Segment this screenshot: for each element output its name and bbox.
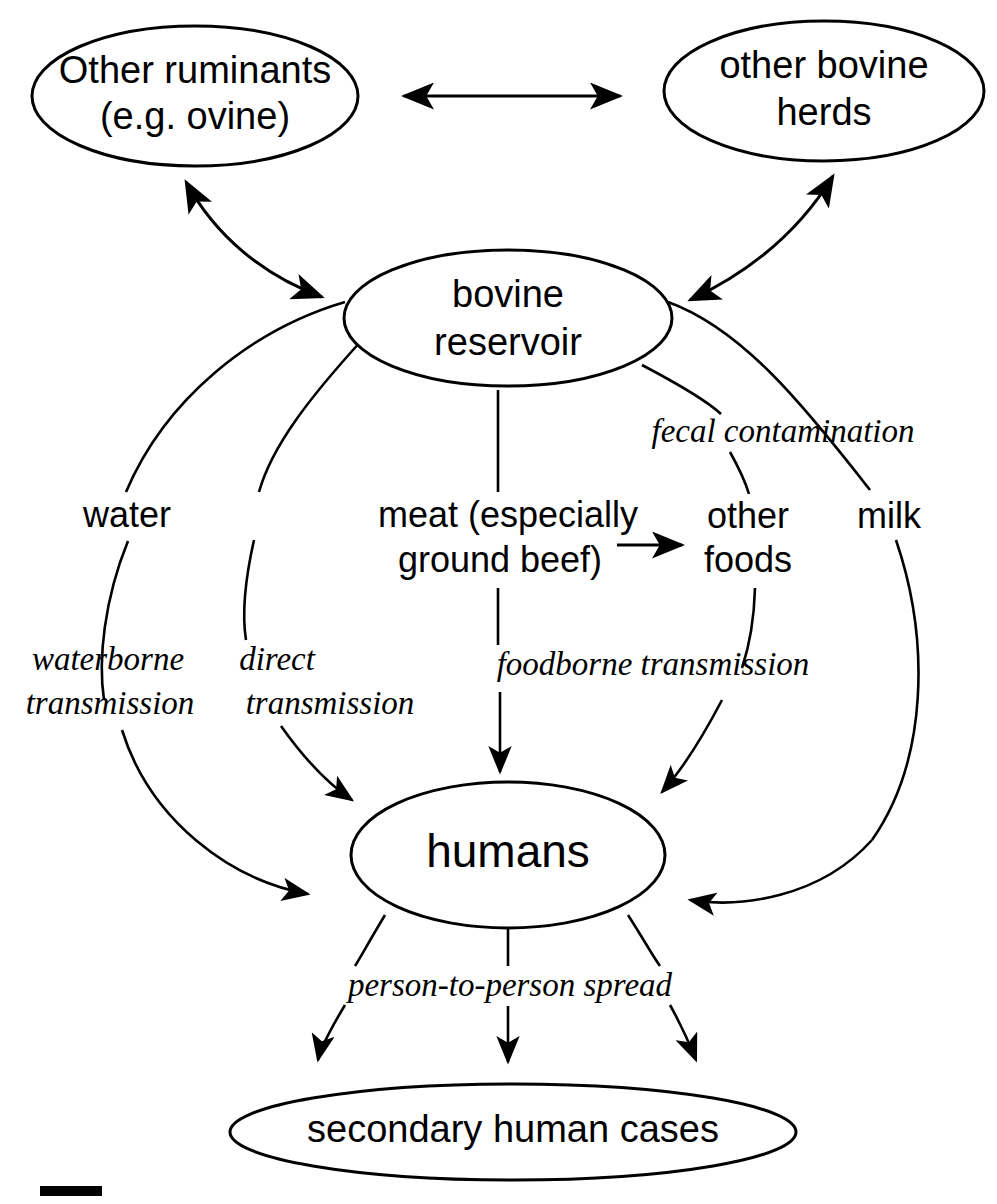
- secondary-human-cases-label: secondary human cases: [307, 1108, 719, 1150]
- edge-segment-foodborne-to-humans-right: [662, 700, 722, 792]
- other-bovine-herds-label-line2: herds: [776, 91, 871, 133]
- node-other-ruminants[interactable]: Other ruminants (e.g. ovine): [32, 26, 358, 166]
- edge-label-meat-line2: ground beef): [398, 539, 602, 580]
- other-bovine-herds-label-line1: other bovine: [719, 44, 928, 86]
- edge-meat-path: [498, 390, 500, 772]
- edge-label-meat-line1: meat (especially: [378, 494, 638, 535]
- bovine-reservoir-label-line1: bovine: [452, 273, 564, 315]
- bovine-reservoir-ellipse[interactable]: [344, 250, 672, 386]
- edge-ruminants-bovine: [186, 182, 322, 297]
- edge-segment-direct-to-humans: [281, 726, 352, 800]
- edge-milk-path: [668, 302, 918, 902]
- transmission-diagram: Other ruminants (e.g. ovine) other bovin…: [0, 0, 997, 1204]
- scale-bar-mark: [40, 1186, 102, 1196]
- edge-segment-humans-right-upper: [628, 915, 660, 966]
- edge-herds-bovine: [690, 176, 833, 300]
- other-ruminants-label-line1: Other ruminants: [59, 49, 331, 91]
- edge-line-herds-bovine: [690, 176, 833, 300]
- diagram-canvas: Other ruminants (e.g. ovine) other bovin…: [0, 0, 997, 1204]
- edge-label-direct-line2: transmission: [246, 685, 415, 721]
- edge-segment-milk-sweep: [872, 540, 918, 840]
- edge-label-person-to-person-spread: person-to-person spread: [346, 967, 673, 1003]
- edge-water-path: [102, 302, 345, 894]
- edge-segment-humans-left-upper: [355, 915, 385, 966]
- edge-segment-bovine-to-direct: [259, 340, 362, 492]
- edge-label-water: water: [82, 494, 171, 535]
- node-secondary-human-cases[interactable]: secondary human cases: [230, 1084, 796, 1180]
- edge-direct-path: [244, 340, 362, 800]
- edge-label-waterborne-line1: waterborne: [32, 641, 184, 677]
- edge-segment-left-to-secondary: [318, 1005, 345, 1060]
- edge-segment-direct-mid: [244, 540, 254, 640]
- node-other-bovine-herds[interactable]: other bovine herds: [664, 21, 984, 161]
- edge-label-milk: milk: [857, 495, 922, 536]
- edge-label-foodborne-transmission: foodborne transmission: [497, 646, 810, 682]
- bovine-reservoir-label-line2: reservoir: [434, 321, 582, 363]
- edge-label-waterborne-line2: transmission: [26, 685, 195, 721]
- edge-segment-milk-to-humans: [690, 840, 872, 902]
- edge-label-other-foods-line1: other: [707, 495, 789, 536]
- edge-line-ruminants-bovine: [186, 182, 322, 297]
- edge-segment-right-to-secondary: [670, 1005, 696, 1060]
- node-bovine-reservoir[interactable]: bovine reservoir: [344, 250, 672, 386]
- edge-label-other-foods-line2: foods: [704, 539, 792, 580]
- node-humans[interactable]: humans: [351, 782, 665, 928]
- edge-label-fecal-contamination: fecal contamination: [651, 413, 914, 449]
- edge-segment-waterborne-to-humans: [122, 730, 308, 894]
- humans-label: humans: [426, 825, 590, 877]
- edge-label-direct-line1: direct: [239, 641, 316, 677]
- edge-segment-fecal-to-foods: [730, 452, 749, 494]
- other-ruminants-label-line2: (e.g. ovine): [100, 95, 290, 137]
- edge-segment-bovine-to-fecal: [642, 365, 721, 414]
